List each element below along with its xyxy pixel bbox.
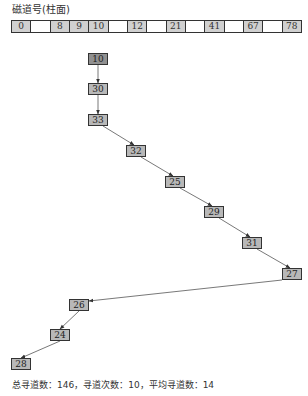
seek-path-arrows [0,0,308,396]
seek-node: 25 [165,176,185,188]
seek-node: 31 [242,237,262,249]
seek-arrow [257,249,290,268]
seek-node: 33 [88,114,108,126]
seek-node: 26 [69,299,89,311]
seek-node: 32 [126,145,146,157]
seek-arrow [219,218,250,237]
seek-node: 10 [88,53,108,65]
seek-node: 30 [88,83,108,95]
seek-arrow [60,311,79,329]
seek-node: 27 [282,268,302,280]
seek-node: 24 [50,329,70,341]
seek-summary: 总寻道数：146，寻道次数：10，平均寻道数：14 [12,378,214,391]
seek-node: 29 [204,206,224,218]
seek-arrow [89,280,282,301]
seek-arrow [21,341,60,358]
seek-node: 28 [11,358,31,370]
seek-arrow [141,157,173,176]
seek-arrow [103,126,134,145]
seek-arrow [180,188,212,206]
